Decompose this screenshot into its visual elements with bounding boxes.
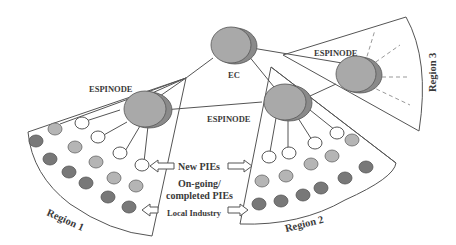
region-1-pies [29,117,149,213]
arrow-new-pies-left [150,160,174,172]
espinode-1-label: ESPINODE [89,84,133,94]
espinode-3-node: ESPINODE [314,48,382,93]
arrow-new-pies-right [228,160,252,172]
espinode-3-label: ESPINODE [314,48,358,58]
legend-ongoing-line1: On-going/ [178,178,221,189]
arrow-local-left [142,204,158,216]
legend-new-pies: New PIEs [178,161,220,172]
espinode-2-label: ESPINODE [207,114,251,124]
espinode-2-node: ESPINODE [207,84,312,124]
arrow-local-right [228,204,248,216]
legend-local-industry: Local Industry [167,208,222,218]
region-3-label: Region 3 [427,53,438,92]
region-2-pies [252,127,373,210]
espinode-1-node: ESPINODE [89,84,172,128]
legend: New PIEs On-going/ completed PIEs Local … [166,161,233,218]
ec-label: EC [228,70,240,80]
ec-node: EC [211,27,257,80]
legend-ongoing-line2: completed PIEs [166,190,233,201]
espinode-network-diagram: EC ESPINODE ESPINODE ESPINODE [0,0,456,245]
